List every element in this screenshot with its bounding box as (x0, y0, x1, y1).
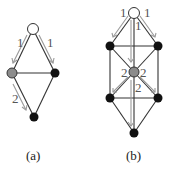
flow-label: 1 (120, 5, 127, 20)
flow-label: 1 (135, 18, 142, 33)
caption-b: (b) (126, 148, 141, 163)
flow-label: 2 (135, 80, 142, 95)
gray-node (129, 67, 139, 77)
black-node (51, 69, 60, 78)
caption-a: (a) (26, 148, 40, 163)
figure-canvas: 1 1 2 (a) (0, 0, 172, 171)
flow-label: 1 (47, 35, 54, 50)
flow-label: 1 (17, 35, 24, 50)
flow-label: 2 (121, 65, 128, 80)
flow-label: 2 (140, 65, 147, 80)
black-node (106, 42, 115, 51)
black-node (130, 129, 139, 138)
edge-right-bottom (34, 73, 55, 117)
panel-a: 1 1 2 (a) (7, 24, 60, 164)
source-node (129, 8, 140, 19)
black-node (154, 42, 163, 51)
edge (110, 98, 134, 133)
edge (134, 98, 158, 133)
gray-node (7, 68, 17, 78)
flow-label: 2 (12, 91, 19, 106)
black-node (154, 94, 163, 103)
black-node (30, 113, 39, 122)
black-node (106, 94, 115, 103)
flow-label: 1 (144, 5, 151, 20)
source-node (28, 24, 39, 35)
panel-b: 1 1 1 2 2 2 (b) (106, 5, 163, 163)
